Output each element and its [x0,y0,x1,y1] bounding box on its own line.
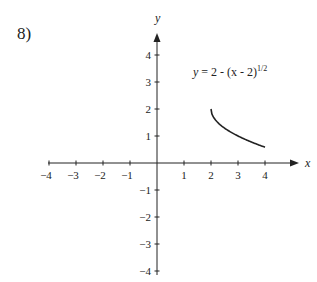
x-tick-label: 4 [262,169,268,181]
y-tick-label: −4 [139,265,151,277]
y-axis [154,33,161,275]
x-arrow-icon [290,160,299,167]
y-tick-label: −1 [139,184,151,196]
y-tick-label: 4 [146,49,152,61]
equation-label: y = 2 - (x - 2)1/2 [193,64,267,80]
graph: −4−3−2−11234 4321−1−2−3−4 x y [0,0,317,282]
y-tick-label: 3 [146,76,152,88]
y-arrow-icon [154,33,161,42]
y-tick-label: −3 [139,238,151,250]
x-tick-label: −2 [94,169,106,181]
y-tick-label: 2 [146,103,152,115]
y-tick-label: −2 [139,211,151,223]
y-tick-label: 1 [146,130,152,142]
x-tick-label: 2 [208,169,214,181]
x-axis-label: x [304,156,311,170]
x-tick-label: 1 [181,169,187,181]
x-tick-label: −4 [40,169,52,181]
x-axis [48,160,299,167]
x-tick-label: −3 [67,169,79,181]
x-tick-label: −1 [121,169,133,181]
x-ticks: −4−3−2−11234 [40,161,268,182]
y-axis-label: y [154,11,161,25]
equation-exponent: 1/2 [257,64,267,73]
x-tick-label: 3 [235,169,241,181]
function-curve [211,109,265,147]
